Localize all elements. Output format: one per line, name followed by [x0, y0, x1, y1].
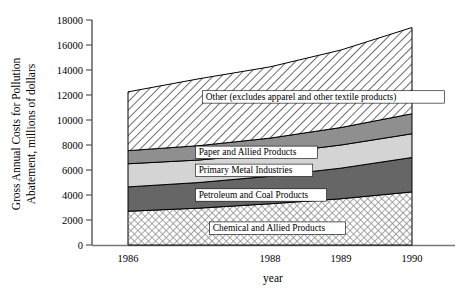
series-label-text: Chemical and Allied Products [213, 223, 326, 233]
x-tick-label: 1986 [118, 253, 139, 264]
x-axis-label: year [263, 272, 283, 285]
y-tick-label: 4000 [62, 190, 83, 201]
y-axis-label-line1: Gross Annual Costs for Pollution [10, 57, 22, 210]
y-tick-label: 2000 [62, 215, 83, 226]
y-tick-label: 16000 [57, 40, 83, 51]
area-chart: Gross Annual Costs for Pollution Abateme… [0, 0, 471, 293]
y-tick-label: 10000 [57, 115, 83, 126]
series-label-text: Paper and Allied Products [199, 147, 297, 157]
x-tick-label: 1990 [402, 253, 423, 264]
series-label-text: Primary Metal Industries [199, 165, 293, 175]
y-axis-label-line2: Abatement, millions of dollars [25, 63, 38, 204]
x-tick-label: 1989 [331, 253, 352, 264]
y-tick-label: 12000 [57, 90, 83, 101]
series-label-text: Other (excludes apparel and other textil… [206, 92, 397, 103]
y-tick-label: 0 [78, 240, 83, 251]
chart-container: Gross Annual Costs for Pollution Abateme… [0, 0, 471, 293]
x-tick-label: 1988 [260, 253, 281, 264]
y-tick-label: 14000 [57, 65, 83, 76]
y-tick-label: 8000 [62, 140, 83, 151]
y-tick-label: 18000 [57, 15, 83, 26]
y-tick-label: 6000 [62, 165, 83, 176]
series-label-text: Petroleum and Coal Products [199, 190, 309, 200]
